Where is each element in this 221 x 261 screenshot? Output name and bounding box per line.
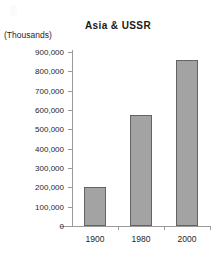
y-axis-tick-label: 400,000 xyxy=(0,144,64,153)
bar xyxy=(130,115,152,226)
y-axis-tick xyxy=(68,91,73,92)
y-axis-tick xyxy=(68,52,73,53)
chart-page: Asia & USSR (Thousands) 900,000800,00070… xyxy=(0,0,221,261)
y-axis-tick xyxy=(68,226,73,227)
y-axis-tick xyxy=(68,110,73,111)
y-axis-tick xyxy=(68,168,73,169)
x-axis-tick-label: 1900 xyxy=(72,234,118,244)
x-axis-line xyxy=(60,226,211,227)
x-axis-tick xyxy=(164,226,165,230)
y-axis-tick xyxy=(68,149,73,150)
y-axis-tick xyxy=(68,129,73,130)
y-axis-tick xyxy=(68,71,73,72)
y-axis-tick-label: 600,000 xyxy=(0,106,64,115)
x-axis-tick xyxy=(210,226,211,230)
y-axis-tick-label: 0 xyxy=(0,222,64,231)
chart-title: Asia & USSR xyxy=(63,20,173,31)
y-axis-tick-label: 900,000 xyxy=(0,48,64,57)
y-axis-tick-label: 800,000 xyxy=(0,67,64,76)
bar xyxy=(84,187,106,226)
x-axis-tick xyxy=(118,226,119,230)
x-axis-tick-label: 1980 xyxy=(118,234,164,244)
y-axis-tick-label: 700,000 xyxy=(0,86,64,95)
y-axis-units-label: (Thousands) xyxy=(4,30,52,40)
y-axis-tick xyxy=(68,207,73,208)
x-axis-tick-label: 2000 xyxy=(164,234,210,244)
y-axis-tick-label: 500,000 xyxy=(0,125,64,134)
y-axis-tick xyxy=(68,187,73,188)
y-axis-line xyxy=(72,50,73,227)
y-axis-tick-label: 300,000 xyxy=(0,164,64,173)
scan-artifact xyxy=(10,5,17,16)
bar xyxy=(176,60,198,226)
y-axis-tick-label: 100,000 xyxy=(0,202,64,211)
y-axis-tick-label: 200,000 xyxy=(0,183,64,192)
